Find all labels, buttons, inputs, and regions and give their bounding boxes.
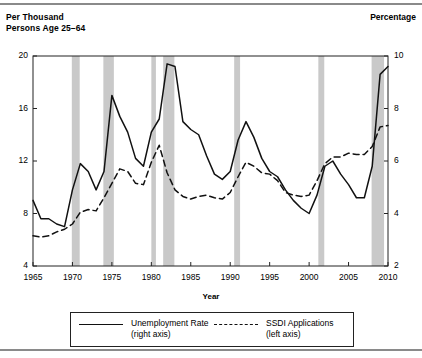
y-axis-tick-label: 12 xyxy=(2,155,28,165)
y-axis-tick-label: 8 xyxy=(2,208,28,218)
x-axis-tick-label: 2010 xyxy=(368,272,408,282)
y2-axis-tick-label: 6 xyxy=(394,155,420,165)
figure-container: Per Thousand Persons Age 25–64 Percentag… xyxy=(0,0,422,358)
x-axis-tick-label: 1970 xyxy=(52,272,92,282)
recession-band-4 xyxy=(234,56,240,266)
series-line-ssdi-applications xyxy=(33,126,388,238)
legend-swatch-ssdi-applications xyxy=(214,324,258,325)
x-axis-title: Year xyxy=(0,292,422,301)
y2-axis-tick-label: 10 xyxy=(394,50,420,60)
chart-legend: Unemployment Rate (right axis) SSDI Appl… xyxy=(70,312,354,347)
recession-band-6 xyxy=(372,56,384,266)
x-axis-tick-label: 1980 xyxy=(131,272,171,282)
x-axis-tick-label: 2000 xyxy=(289,272,329,282)
chart-plot-area xyxy=(0,0,422,358)
series-line-unemployment-rate xyxy=(33,64,388,227)
y-axis-tick-label: 16 xyxy=(2,103,28,113)
plot-frame xyxy=(33,56,388,266)
recession-band-2 xyxy=(151,56,156,266)
legend-swatch-unemployment-rate xyxy=(79,324,123,325)
legend-label-ssdi-applications: SSDI Applications (left axis) xyxy=(266,318,334,340)
y2-axis-tick-label: 2 xyxy=(394,260,420,270)
y2-axis-tick-label: 8 xyxy=(394,103,420,113)
x-axis-tick-label: 1985 xyxy=(171,272,211,282)
legend-label-unemployment-rate: Unemployment Rate (right axis) xyxy=(131,318,208,340)
x-axis-tick-label: 1990 xyxy=(210,272,250,282)
y-axis-tick-label: 4 xyxy=(2,260,28,270)
x-axis-tick-label: 1995 xyxy=(250,272,290,282)
y-axis-tick-label: 20 xyxy=(2,50,28,60)
x-axis-tick-label: 1965 xyxy=(13,272,53,282)
x-axis-tick-label: 1975 xyxy=(92,272,132,282)
recession-band-3 xyxy=(163,56,174,266)
x-axis-tick-label: 2005 xyxy=(329,272,369,282)
recession-band-5 xyxy=(318,56,324,266)
y2-axis-tick-label: 4 xyxy=(394,208,420,218)
recession-band-0 xyxy=(72,56,80,266)
